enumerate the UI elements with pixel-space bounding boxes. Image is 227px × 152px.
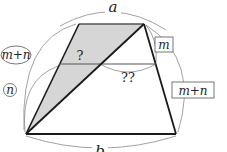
label-left-lower: n	[6, 83, 14, 97]
label-bottom-base: b	[95, 142, 105, 152]
label-right-upper: m	[158, 38, 169, 52]
label-left-total: m+n	[1, 48, 30, 62]
label-right-total: m+n	[178, 84, 207, 98]
label-unknown-right: ??	[121, 70, 135, 85]
label-top-base: a	[109, 0, 118, 16]
trapezoid-diagram: a b m+n n m m+n ? ??	[0, 0, 227, 152]
label-unknown-left: ?	[77, 48, 84, 63]
